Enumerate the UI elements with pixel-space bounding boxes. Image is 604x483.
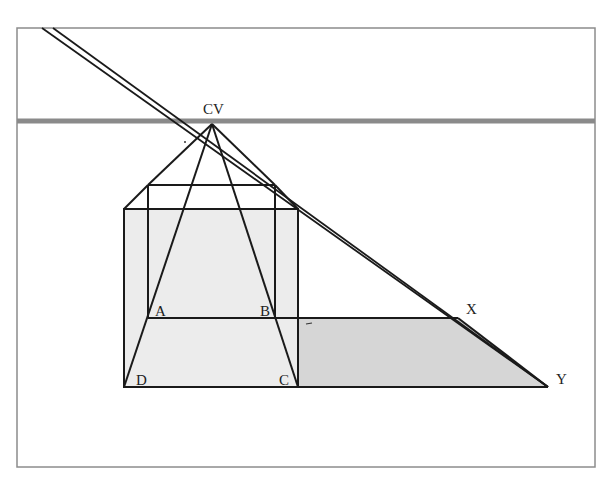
label-cv: CV (203, 101, 224, 117)
label-y: Y (556, 371, 567, 387)
figure-frame (17, 28, 595, 467)
label-x: X (466, 301, 477, 317)
label-a: A (155, 303, 166, 319)
perspective-diagram: CV A B C D X Y (0, 0, 604, 483)
label-d: D (136, 372, 147, 388)
box-front-face (124, 209, 298, 387)
label-c: C (279, 372, 289, 388)
stray-dot (184, 141, 186, 143)
label-b: B (260, 303, 270, 319)
